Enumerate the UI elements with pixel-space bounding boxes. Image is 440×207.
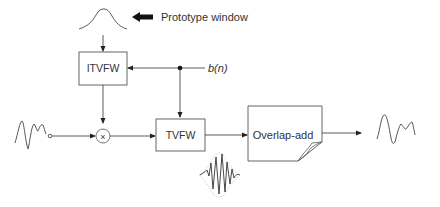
output-signal-waveform [377,115,415,144]
overlap-add-label: Overlap-add [253,129,314,141]
prototype-window-curve [79,9,127,29]
prototype-window-label: Prototype window [161,11,248,23]
itvfw-label: ITVFW [87,62,120,74]
prototype-arrow-icon [132,12,153,22]
multiply-symbol: × [100,132,105,142]
bn-label: b(n) [208,62,228,74]
overlap-add-block: Overlap-add [248,106,322,161]
windowed-wavelet [199,153,240,197]
tvfw-block: TVFW [156,119,205,151]
block-diagram: Prototype window ITVFW b(n) × TVFW Overl… [0,0,440,207]
input-terminal [48,134,52,138]
multiplier-node: × [96,129,110,143]
itvfw-block: ITVFW [79,52,127,85]
tvfw-label: TVFW [166,129,196,141]
input-signal-waveform [15,121,46,149]
